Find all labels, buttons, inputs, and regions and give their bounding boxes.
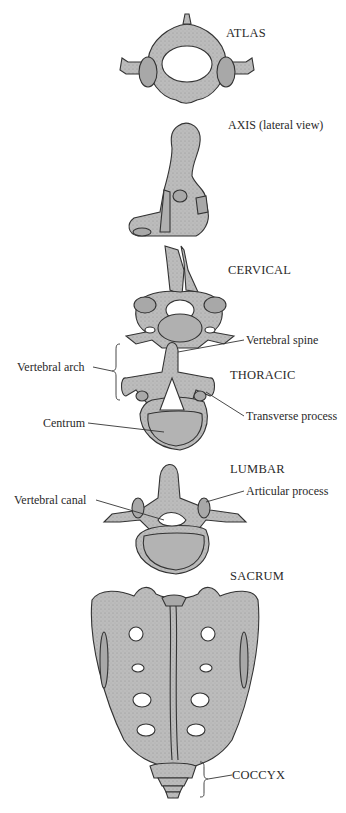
label-axis: AXIS (lateral view) [228, 119, 323, 131]
label-lumbar: LUMBAR [230, 463, 285, 476]
thoracic-vertebra [122, 343, 215, 451]
vertebral-arch-bracket [112, 344, 120, 400]
label-atlas: ATLAS [226, 27, 266, 40]
transverse-process-leader [206, 392, 244, 416]
label-sacrum: SACRUM [230, 570, 284, 583]
label-thoracic: THORACIC [230, 369, 296, 382]
label-centrum: Centrum [43, 417, 85, 429]
axis-bone [129, 123, 208, 236]
sacrum-bone [91, 587, 258, 772]
label-transverse-process: Transverse process [246, 410, 337, 422]
label-vertebral-arch: Vertebral arch [17, 361, 85, 373]
coccyx-bone [150, 763, 196, 798]
label-articular-process: Articular process [246, 485, 328, 497]
label-coccyx: COCCYX [232, 769, 285, 782]
coccyx-leader [208, 775, 232, 779]
cervical-vertebra [126, 246, 234, 348]
label-vertebral-canal: Vertebral canal [14, 494, 86, 506]
articular-process-leader [206, 491, 244, 502]
lumbar-vertebra [104, 464, 246, 574]
vertebral-arch-leader [93, 367, 112, 371]
label-vertebral-spine: Vertebral spine [246, 334, 318, 346]
label-cervical: CERVICAL [228, 264, 291, 277]
coccyx-bracket [200, 762, 208, 797]
vertebrae-diagram: ATLAS AXIS (lateral view) CERVICAL THORA… [0, 0, 346, 813]
